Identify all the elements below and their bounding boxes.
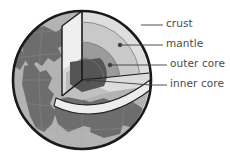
label-mantle: mantle — [166, 38, 203, 49]
label-inner-core: inner core — [170, 78, 224, 89]
inner-core-leader-dot — [86, 78, 90, 82]
diagram-canvas: crust mantle outer core inner core — [0, 0, 230, 162]
label-outer-core: outer core — [170, 58, 225, 69]
label-crust: crust — [166, 18, 193, 29]
outer-core-leader-dot — [108, 63, 112, 67]
mantle-leader-dot — [118, 43, 122, 47]
